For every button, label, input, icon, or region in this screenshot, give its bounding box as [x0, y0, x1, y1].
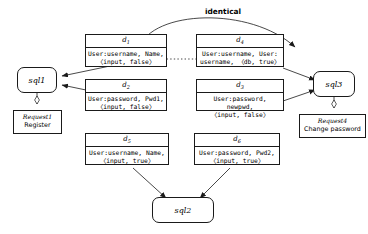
attribute-box-d2-label: d2	[86, 80, 166, 93]
attribute-box-d1: d1 User:username, Name, 〈input, false〉	[85, 34, 167, 67]
attribute-box-d6: d6 User:password, Pwd2, 〈input, true〉	[194, 133, 280, 165]
attribute-box-d5: d5 User:username, Name, 〈input, true〉	[85, 133, 169, 165]
request-box-request4-description: Change password	[300, 125, 365, 134]
dependency-diagram: identical d1 User:username, Name, 〈input…	[0, 0, 368, 234]
edge-d4-sql3	[283, 68, 315, 80]
sql-node-sql1-label: sql1	[29, 76, 46, 85]
sql-node-sql3[interactable]: sql3	[313, 71, 355, 97]
attribute-box-d5-body: User:username, Name, 〈input, true〉	[86, 147, 168, 167]
edge-d3-sql3	[283, 90, 315, 101]
sql-node-sql1[interactable]: sql1	[17, 67, 57, 93]
attribute-box-d6-body: User:password, Pwd2, 〈input, true〉	[195, 147, 279, 167]
sql-node-sql2-label: sql2	[175, 206, 192, 215]
request-box-request1-description: Register	[14, 121, 61, 130]
attribute-box-d3-body: User:password, newpwd, 〈input, false〉	[197, 93, 283, 121]
request-box-request4-title: Request4	[300, 117, 365, 125]
edge-d6-sql2	[200, 168, 230, 198]
attribute-box-d1-body: User:username, Name, 〈input, false〉	[86, 48, 166, 68]
edge-d5-sql2	[133, 168, 166, 198]
attribute-box-d3-label: d3	[197, 80, 283, 93]
attribute-box-d4-label: d4	[197, 35, 283, 48]
attribute-box-d3: d3 User:password, newpwd, 〈input, false〉	[196, 79, 284, 111]
attribute-box-d2-body: User:password, Pwd1, 〈input, false〉	[86, 93, 166, 113]
attribute-box-d2: d2 User:password, Pwd1, 〈input, false〉	[85, 79, 167, 111]
attribute-box-d4: d4 User:username, User: username, 〈db, t…	[196, 34, 284, 67]
attribute-box-d6-label: d6	[195, 134, 279, 147]
attribute-box-d1-label: d1	[86, 35, 166, 48]
attribute-box-d5-label: d5	[86, 134, 168, 147]
identical-label: identical	[203, 7, 243, 16]
sql-node-sql2[interactable]: sql2	[152, 197, 214, 223]
request-box-request1-title: Request1	[14, 113, 61, 121]
sql-node-sql3-label: sql3	[326, 80, 343, 89]
request-box-request4: Request4 Change password	[299, 114, 366, 138]
attribute-box-d4-body: User:username, User: username, 〈db, true…	[197, 48, 283, 68]
request-box-request1: Request1 Register	[13, 110, 62, 134]
